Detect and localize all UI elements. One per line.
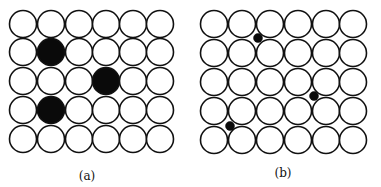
lattice-atom [201,127,228,154]
lattice-atom [201,11,228,38]
lattice-atom [66,126,93,153]
lattice-atom [257,98,284,125]
lattice-atom [313,69,340,96]
lattice-atom [93,97,120,124]
lattice-atom [120,68,147,95]
substitutional-atom [38,39,65,66]
lattice-atom [120,97,147,124]
lattice-atom [340,127,367,154]
lattice-atom [10,11,37,38]
lattice-atom [340,69,367,96]
lattice-atom [38,11,65,38]
lattice-atom [340,40,367,67]
lattice-atom [257,127,284,154]
lattice-atom [285,40,312,67]
lattice-atom [93,126,120,153]
lattice-atom [285,11,312,38]
lattice-atom [313,98,340,125]
lattice-atom [10,68,37,95]
lattice-atom [201,98,228,125]
lattice-atom [201,69,228,96]
lattice-atom [10,97,37,124]
lattice-atom [229,127,256,154]
lattice-atom [257,40,284,67]
lattice-atom [66,39,93,66]
lattice-atom [66,68,93,95]
lattice-atom [340,11,367,38]
lattice-atom [229,69,256,96]
lattice-atom [257,11,284,38]
interstitial-atom [310,92,319,101]
lattice-atom [257,69,284,96]
lattice-atom [285,127,312,154]
substitutional-atom [93,68,120,95]
lattice-atom [313,40,340,67]
lattice-atom [66,11,93,38]
lattice-atom [229,40,256,67]
lattice-atom [38,126,65,153]
lattice-atom [93,11,120,38]
lattice-atom [38,68,65,95]
panel-a-label: (a) [79,169,96,183]
lattice-atom [229,98,256,125]
lattice-atom [147,39,174,66]
lattice-atom [285,98,312,125]
lattice-atom [229,11,256,38]
lattice-atom [10,39,37,66]
lattice-atom [66,97,93,124]
substitutional-atom [38,97,65,124]
lattice-atom [147,68,174,95]
interstitial-atom [254,34,263,43]
lattice-atom [120,11,147,38]
interstitial-atom [226,122,235,131]
lattice-atom [201,40,228,67]
panel-b-interstitial-lattice [201,11,367,154]
lattice-atom [120,126,147,153]
lattice-atom [313,11,340,38]
panel-a-substitutional-lattice [10,11,174,153]
lattice-atom [285,69,312,96]
lattice-atom [313,127,340,154]
lattice-atom [340,98,367,125]
lattice-atom [120,39,147,66]
lattice-atom [93,39,120,66]
lattice-atom [10,126,37,153]
lattice-defect-figure: (a) (b) [0,0,381,187]
lattice-atom [147,126,174,153]
lattice-atom [147,97,174,124]
lattice-atom [147,11,174,38]
panel-b-label: (b) [274,166,291,180]
